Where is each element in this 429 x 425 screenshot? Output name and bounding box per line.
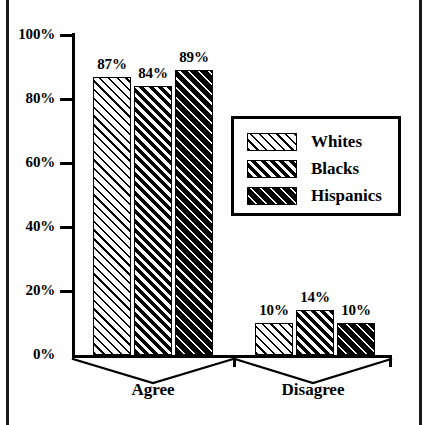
legend-item-blacks: Blacks (234, 155, 398, 182)
bar-disagree-hispanics (337, 323, 375, 355)
bar-value-disagree-hispanics: 10% (329, 303, 383, 318)
legend-label-hispanics: Hispanics (311, 187, 382, 204)
bar-disagree-whites (255, 323, 293, 355)
legend-swatch-hispanics-icon (247, 187, 297, 205)
bar-chart-plot: 100% 80% 60% 40% 20% 0% 87% 84% 89% 10% … (0, 0, 429, 425)
y-axis-label-40: 40% (0, 219, 55, 234)
bar-agree-whites (93, 77, 131, 355)
bar-agree-hispanics (175, 70, 213, 355)
y-axis-label-20: 20% (0, 283, 55, 298)
y-axis-tick-100 (60, 34, 73, 37)
y-axis-label-80: 80% (0, 91, 55, 106)
y-axis-tick-40 (60, 226, 73, 229)
y-axis-label-100: 100% (0, 27, 55, 42)
y-axis-tick-60 (60, 162, 73, 165)
x-axis-group-label-agree: Agree (73, 381, 233, 398)
legend-item-hispanics: Hispanics (234, 182, 398, 209)
legend-swatch-whites-icon (247, 133, 297, 151)
chart-page: 100% 80% 60% 40% 20% 0% 87% 84% 89% 10% … (0, 0, 429, 425)
chart-legend: Whites Blacks Hispanics (231, 116, 401, 216)
bar-value-agree-blacks: 84% (126, 66, 180, 81)
y-axis-line (72, 33, 75, 358)
legend-item-whites: Whites (234, 128, 398, 155)
legend-label-whites: Whites (311, 133, 362, 150)
bar-value-agree-hispanics: 89% (167, 50, 221, 65)
legend-label-blacks: Blacks (311, 160, 359, 177)
x-axis-group-label-disagree: Disagree (233, 381, 393, 398)
bar-value-disagree-whites: 10% (247, 303, 301, 318)
y-axis-tick-80 (60, 98, 73, 101)
y-axis-label-0: 0% (0, 347, 55, 362)
y-axis-label-60: 60% (0, 155, 55, 170)
bar-agree-blacks (134, 86, 172, 355)
legend-swatch-blacks-icon (247, 160, 297, 178)
y-axis-tick-20 (60, 290, 73, 293)
